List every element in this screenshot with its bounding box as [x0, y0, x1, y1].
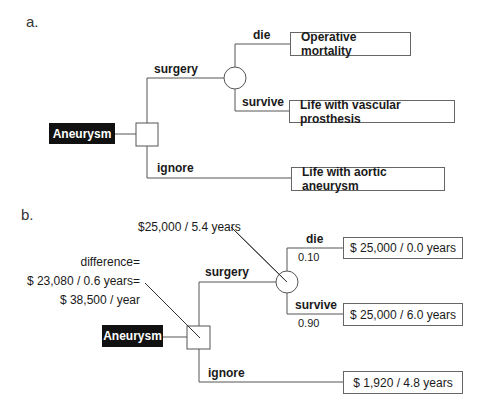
outcome-die-value: $ 25,000 / 0.0 years [343, 237, 463, 259]
branch-label-die-b: die [306, 232, 323, 246]
panel-a-label: a. [26, 13, 39, 30]
root-node-aneurysm-a: Aneurysm [49, 123, 115, 144]
outcome-operative-mortality: Operative mortality [290, 32, 411, 56]
decision-node-b [187, 326, 210, 349]
panel-b-label: b. [21, 206, 34, 223]
chance-node-a [224, 67, 246, 89]
outcome-ignore-value: $ 1,920 / 4.8 years [343, 371, 463, 394]
branch-label-ignore-a: ignore [157, 161, 194, 175]
branch-label-survive-b: survive [295, 298, 337, 312]
root-node-aneurysm-b: Aneurysm [102, 325, 163, 347]
decision-node-a [136, 123, 158, 146]
tree-connectors [0, 0, 482, 413]
branch-label-surgery-a: surgery [154, 62, 198, 76]
probability-die: 0.10 [298, 251, 319, 263]
chance-node-value-annotation: $25,000 / 5.4 years [138, 218, 241, 237]
branch-label-surgery-b: surgery [205, 265, 249, 279]
difference-line-1: difference= [27, 253, 140, 272]
outcome-survive-value: $ 25,000 / 6.0 years [343, 303, 463, 326]
probability-survive: 0.90 [298, 317, 319, 329]
difference-annotation: difference= $ 23,080 / 0.6 years= $ 38,5… [27, 253, 140, 310]
branch-label-die-a: die [253, 28, 270, 42]
difference-line-2: $ 23,080 / 0.6 years= [27, 272, 140, 291]
branch-label-ignore-b: ignore [208, 366, 245, 380]
branch-label-survive-a: survive [242, 95, 284, 109]
difference-line-3: $ 38,500 / year [27, 291, 140, 310]
outcome-life-vascular-prosthesis: Life with vascular prosthesis [289, 100, 455, 123]
outcome-life-aortic-aneurysm: Life with aortic aneurysm [291, 167, 445, 191]
